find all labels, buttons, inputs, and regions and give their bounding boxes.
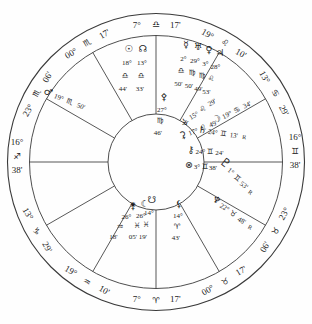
cusp-3-sign: ♒ <box>81 275 93 287</box>
point-chiron-min: 24' <box>215 149 223 157</box>
point-neptune-sign: ♉ <box>228 208 239 219</box>
point-uranus-sign: ♍ <box>189 68 196 77</box>
cusp-5-deg: 00° <box>200 282 216 297</box>
point-pallas-glyph: ⚴ <box>161 91 168 102</box>
point-fortune-glyph: ⊗ <box>185 159 193 170</box>
point-jupiter-deg: 28° <box>211 63 221 71</box>
point-pallas-sign: ♍ <box>157 116 164 125</box>
point-fortune-min: 38' <box>209 164 217 172</box>
cusp-4-deg: 7° <box>133 294 142 304</box>
cusp-8-deg: 13° <box>257 69 272 85</box>
point-sun-deg: 18° <box>122 59 132 67</box>
cusp-9-min: 10' <box>234 46 249 60</box>
natal-chart-canvas: 7°♎17'00°♏17'23°♏06'16°♐38'13°♑29'19°♒10… <box>0 0 312 324</box>
cusp-2-min: 29' <box>40 240 54 255</box>
point-dark-moon-glyph: ☾ <box>141 198 150 209</box>
point-north-node-sign: ♎ <box>138 71 145 80</box>
point-dark-moon-sign: ♓ <box>134 221 141 230</box>
point-saturn-deg: 24° <box>207 128 218 137</box>
cusp-10-sign: ♎ <box>152 19 160 29</box>
point-saturn-retro: R <box>242 134 247 141</box>
house-cusp-line-210 <box>46 186 114 225</box>
point-vesta-min: 29' <box>206 97 217 108</box>
point-dark-moon-min: 05' <box>129 233 137 241</box>
point-uranus-deg: 29° <box>190 57 200 65</box>
cusp-2-deg: 13° <box>21 206 36 222</box>
point-mercury-sign: ♎ <box>178 66 185 75</box>
cusp-5-min: 17' <box>234 264 249 278</box>
point-juno-glyph: ⚵ <box>130 200 137 211</box>
cusp-7-sign: ♊ <box>291 146 299 156</box>
cusp-2-sign: ♑ <box>30 225 42 237</box>
point-vesta-deg: 15° <box>188 110 201 122</box>
point-mars-min: 50' <box>75 101 86 111</box>
point-jupiter-min: 53' <box>202 88 210 96</box>
cusp-6-sign: ♉ <box>269 225 281 237</box>
cusp-10-min: 17' <box>170 20 181 30</box>
cusp-12-deg: 23° <box>21 102 36 118</box>
cusp-7-deg: 16° <box>289 132 302 142</box>
cusp-12-min: 06' <box>40 70 54 85</box>
point-mars-deg: 19° <box>53 92 65 103</box>
cusp-11-sign: ♏ <box>81 36 93 49</box>
point-mercury-min: 50' <box>174 80 182 88</box>
point-pluto-retro: R <box>247 189 254 196</box>
cusp-3-min: 10' <box>97 283 112 297</box>
cusp-11-deg: 00° <box>63 46 79 61</box>
cusp-9-deg: 19° <box>200 27 216 42</box>
point-neptune-min: 48' <box>236 215 247 226</box>
point-lilith-min: 43' <box>172 234 180 242</box>
point-pallas-min: 46' <box>154 129 162 137</box>
house-cusp-line-330 <box>198 186 266 225</box>
point-mars-glyph: ♂ <box>42 85 54 98</box>
point-juno-min: 18' <box>109 233 117 241</box>
point-saturn-glyph: ♄ <box>197 123 207 135</box>
point-south-point-sign: ♓ <box>143 220 150 229</box>
cusp-4-sign: ♈ <box>152 295 160 305</box>
point-juno-sign: ♒ <box>117 222 124 231</box>
house-cusp-line-300 <box>180 204 219 272</box>
point-lilith-glyph: ⚸ <box>176 198 183 209</box>
point-mars-sign: ♏ <box>65 96 75 107</box>
point-north-node-min: 33' <box>136 85 144 93</box>
point-sun-glyph: ☉ <box>125 43 134 54</box>
point-mercury-glyph: ☿ <box>183 39 189 50</box>
point-venus-sign: ♍ <box>199 71 206 80</box>
point-moon-deg: 19° <box>221 109 233 121</box>
cusp-7-min: 38' <box>290 160 301 170</box>
point-chiron-glyph: ⚷ <box>188 144 195 155</box>
point-venus-deg: 3° <box>202 60 209 68</box>
point-north-node-deg: 13° <box>137 59 147 67</box>
point-south-point-min: 19' <box>139 233 147 241</box>
point-uranus-min: 50' <box>185 82 193 90</box>
point-sun-sign: ♎ <box>122 71 129 80</box>
point-pallas-deg: 27° <box>157 106 167 114</box>
point-lilith-sign: ♈ <box>174 222 181 231</box>
cusp-10-deg: 7° <box>133 20 142 30</box>
point-vesta-sign: ♌ <box>198 103 208 114</box>
point-juno-deg: 26° <box>122 213 132 221</box>
natal-chart-wheel: 7°♎17'00°♏17'23°♏06'16°♐38'13°♑29'19°♒10… <box>0 0 312 324</box>
point-chiron-sign: ♊ <box>207 147 214 156</box>
point-venus-glyph: ♀ <box>206 44 213 55</box>
cusp-6-min: 06' <box>258 240 272 255</box>
point-sun-min: 44' <box>119 85 127 93</box>
point-lilith-deg: 14° <box>173 212 183 220</box>
point-saturn-min: 13' <box>229 131 238 140</box>
cusp-6-deg: 23° <box>276 205 291 221</box>
point-pluto-min: 53' <box>238 180 249 191</box>
cusp-12-sign: ♏ <box>30 87 43 99</box>
point-fortune-sign: ♊ <box>202 162 209 171</box>
cusp-8-sign: ♋ <box>269 87 281 99</box>
cusp-8-min: 29' <box>277 103 291 118</box>
point-jupiter-sign: ♌ <box>208 74 215 83</box>
point-uranus-glyph: ♅ <box>194 41 203 52</box>
cusp-1-deg: 16° <box>11 137 24 147</box>
point-moon-min: 34' <box>242 100 253 111</box>
cusp-1-min: 38' <box>12 165 23 175</box>
point-neptune-retro: R <box>247 224 253 231</box>
cusp-5-sign: ♉ <box>219 275 231 287</box>
point-saturn-sign: ♊ <box>219 129 227 139</box>
point-neptune-deg: 22° <box>218 202 231 214</box>
cusp-1-sign: ♐ <box>13 151 21 161</box>
